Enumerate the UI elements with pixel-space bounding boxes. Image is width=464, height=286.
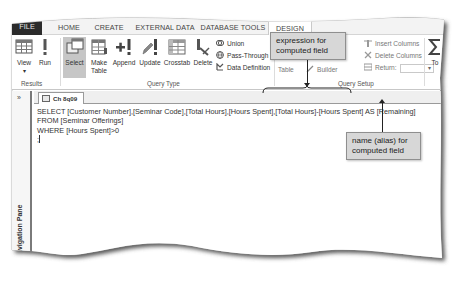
view-label: View [17, 59, 31, 66]
query-type-group-label: Query Type [147, 80, 180, 87]
crosstab-label: Crosstab [164, 59, 190, 66]
delete-columns-icon [364, 51, 372, 59]
make-table-label-2: Table [91, 67, 107, 74]
expression-callout: expression for computed field [270, 32, 346, 60]
tab-database-tools[interactable]: DATABASE TOOLS [200, 20, 266, 35]
insert-columns-button[interactable]: Insert Columns [364, 39, 419, 49]
update-pencil-icon [141, 38, 159, 56]
delete-columns-button[interactable]: Delete Columns [364, 51, 422, 61]
insert-columns-label: Insert Columns [375, 40, 419, 47]
alias-callout-pointer [382, 103, 383, 132]
pass-through-button[interactable]: Pass-Through [216, 51, 268, 61]
ribbon: View ▾ Run Results Select [12, 35, 444, 90]
tab-home[interactable]: HOME [52, 20, 86, 35]
text-cursor [39, 135, 40, 143]
delete-query-button[interactable]: Delete [192, 38, 214, 67]
make-table-button[interactable]: Make Table [88, 38, 110, 75]
group-divider [60, 38, 61, 86]
delete-columns-label: Delete Columns [375, 52, 422, 59]
data-definition-icon [216, 63, 224, 71]
make-table-icon [90, 38, 108, 56]
select-query-button[interactable]: Select [63, 37, 86, 78]
append-icon [115, 38, 133, 56]
datasheet-view-icon [15, 38, 33, 56]
sql-line-from: FROM [Seminar Offerings] [37, 116, 416, 125]
results-group-label: Results [21, 80, 42, 87]
globe-icon [216, 51, 224, 59]
sql-line-select: SELECT [Customer Number],[Seminar Code],… [37, 107, 416, 116]
run-label: Run [39, 59, 51, 66]
view-dropdown-icon: ▾ [23, 68, 26, 74]
navigation-pane[interactable]: » Navigation Pane [12, 91, 32, 266]
pass-through-label: Pass-Through [227, 52, 268, 59]
query-tab-label: Ch 8q09 [53, 95, 77, 102]
document-area: » Navigation Pane Ch 8q09 SELECT [Custom… [12, 91, 444, 266]
group-divider [424, 38, 425, 86]
union-button[interactable]: Union [216, 39, 244, 49]
make-table-label-1: Make [91, 59, 107, 66]
expression-brace [262, 86, 352, 94]
update-label: Update [139, 59, 160, 66]
data-definition-label: Data Definition [227, 64, 270, 71]
show-table-button[interactable]: Table [278, 65, 294, 75]
delete-label: Delete [193, 59, 212, 66]
crosstab-icon [168, 38, 186, 56]
tab-create[interactable]: CREATE [90, 20, 128, 35]
delete-query-icon [194, 38, 212, 56]
update-button[interactable]: Update [138, 38, 162, 67]
crosstab-button[interactable]: Crosstab [163, 38, 191, 67]
insert-columns-icon [364, 39, 372, 47]
data-definition-button[interactable]: Data Definition [216, 63, 270, 73]
run-exclamation-icon [36, 38, 54, 56]
expression-callout-pointer [307, 60, 308, 85]
alias-callout: name (alias) for computed field [346, 132, 421, 160]
union-label: Union [227, 40, 244, 47]
shutter-bar-open-close-button[interactable]: » [17, 94, 21, 101]
sigma-icon [426, 38, 444, 56]
tab-external-data[interactable]: EXTERNAL DATA [134, 20, 196, 35]
return-icon [364, 63, 372, 71]
totals-label: To [432, 59, 439, 66]
builder-button[interactable]: Builder [306, 65, 338, 75]
builder-label: Builder [317, 66, 338, 73]
select-label: Select [65, 59, 83, 66]
append-label: Append [113, 59, 136, 66]
append-button[interactable]: Append [112, 38, 136, 67]
view-button[interactable]: View ▾ [14, 38, 34, 75]
return-label: Return: [375, 64, 397, 71]
select-query-icon [66, 38, 84, 56]
query-icon [42, 95, 50, 102]
query-object-tab[interactable]: Ch 8q09 [38, 92, 84, 104]
run-button[interactable]: Run [36, 38, 54, 67]
union-icon [216, 39, 224, 47]
